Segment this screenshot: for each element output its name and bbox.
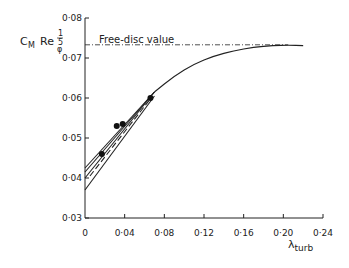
series-line [85,92,154,178]
svg-text:Re: Re [40,35,54,48]
svg-text:M: M [28,41,35,50]
y-tick-label: 0·07 [62,53,82,63]
series-line [85,92,154,172]
y-tick-label: 0·08 [62,13,82,23]
x-tick-label: 0·08 [154,228,174,238]
x-tick-label: 0 [82,228,88,238]
data-point [99,151,105,157]
chart: 00·040·080·120·160·200·24 0·030·040·050·… [0,0,349,268]
axes [85,18,323,218]
series-line [90,100,149,176]
x-tick-label: 0·20 [273,228,293,238]
series-line [154,45,303,92]
x-tick-label: 0·16 [234,228,254,238]
free-disc-label: Free-disc value [99,34,174,45]
y-tick-label: 0·03 [62,213,82,223]
svg-text:C: C [20,35,28,48]
x-tick-label: 0·04 [115,228,135,238]
svg-text:1: 1 [58,29,63,38]
data-point [147,95,153,101]
x-tick-label: 0·24 [313,228,333,238]
y-tick-label: 0·05 [62,133,82,143]
data-point [114,123,120,129]
y-tick-label: 0·06 [62,93,82,103]
series [85,45,303,190]
y-axis-label: C M Re φ 1 5 [20,29,63,54]
svg-text:5: 5 [58,38,63,47]
data-points [99,95,154,157]
data-point [120,121,126,127]
series-line [85,96,154,190]
x-tick-label: 0·12 [194,228,214,238]
y-tick-label: 0·04 [62,173,82,183]
x-axis-label: λturb [288,238,313,253]
